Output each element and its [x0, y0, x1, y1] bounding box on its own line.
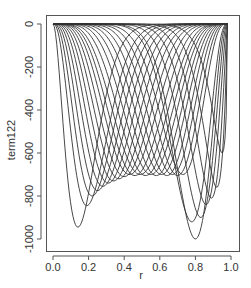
- y-tick-label: -200: [23, 56, 35, 78]
- x-tick-label: 0.0: [45, 261, 60, 273]
- chart-background: [0, 0, 251, 288]
- y-tick-label: -1000: [23, 225, 35, 253]
- x-tick-label: 0.2: [81, 261, 96, 273]
- x-tick-label: 0.4: [117, 261, 132, 273]
- x-tick-label: 0.6: [152, 261, 167, 273]
- x-tick-label: 0.8: [188, 261, 203, 273]
- y-tick-label: -400: [23, 99, 35, 121]
- chart: 0.00.20.40.60.81.0 0-200-400-600-800-100…: [0, 0, 251, 288]
- y-tick-label: 0: [23, 21, 35, 27]
- y-axis-label: term122: [5, 120, 17, 160]
- y-tick-label: -600: [23, 142, 35, 164]
- x-tick-label: 1.0: [223, 261, 238, 273]
- y-tick-label: -800: [23, 185, 35, 207]
- x-axis-label: r: [139, 269, 143, 281]
